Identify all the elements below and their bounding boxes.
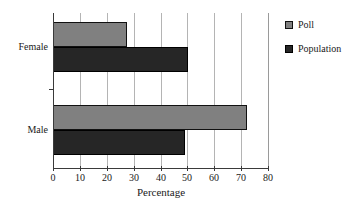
gridline-x (187, 13, 188, 168)
x-tick-label: 70 (226, 172, 256, 184)
x-tick-mark (268, 166, 269, 171)
x-tick-mark (161, 166, 162, 171)
gridline-x (214, 13, 215, 168)
x-tick-mark (241, 166, 242, 171)
x-tick-mark (80, 166, 81, 171)
x-tick-label: 30 (119, 172, 149, 184)
legend-item-poll: Poll (285, 13, 353, 37)
plot-area (53, 13, 268, 168)
bar-female-population (53, 47, 188, 72)
x-axis-title: Percentage (53, 186, 269, 199)
bar-male-population (53, 130, 185, 155)
x-tick-label: 20 (92, 172, 122, 184)
x-tick-label: 0 (38, 172, 68, 184)
legend-item-population: Population (285, 37, 353, 61)
legend-swatch-icon (285, 21, 293, 29)
bar-male-poll (53, 105, 247, 130)
bar-chart: 0 10 20 30 40 50 60 70 80 Female Male Pe… (0, 0, 353, 209)
x-tick-label: 10 (65, 172, 95, 184)
y-tick-mark (49, 89, 54, 90)
x-tick-label: 80 (253, 172, 283, 184)
y-category-label-female: Female (0, 41, 48, 53)
legend-label: Poll (298, 19, 314, 31)
x-tick-mark (187, 166, 188, 171)
x-tick-mark (134, 166, 135, 171)
x-tick-mark (53, 166, 54, 171)
legend-swatch-icon (285, 45, 293, 53)
legend-label: Population (298, 43, 341, 55)
chart-legend: Poll Population (285, 13, 353, 61)
x-tick-label: 60 (199, 172, 229, 184)
gridline-x (241, 13, 242, 168)
gridline-x (268, 13, 269, 168)
x-tick-mark (214, 166, 215, 171)
y-axis-line (53, 13, 54, 169)
x-tick-mark (107, 166, 108, 171)
x-tick-label: 50 (172, 172, 202, 184)
bar-female-poll (53, 22, 127, 47)
y-category-label-male: Male (0, 124, 48, 136)
